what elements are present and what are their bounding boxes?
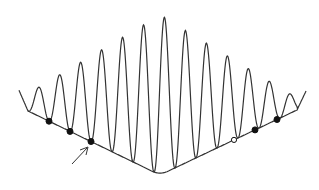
oscillating-wave [19,17,306,172]
minima-markers [46,117,280,145]
open-marker [231,137,236,142]
filled-marker [252,127,258,133]
filled-marker [88,139,94,145]
wave-diagram [0,0,319,190]
filled-marker [274,117,280,123]
diagram-canvas [0,0,319,190]
v-baseline [28,110,297,173]
arrow-icon [72,147,88,164]
filled-marker [67,128,73,134]
filled-marker [46,118,52,124]
